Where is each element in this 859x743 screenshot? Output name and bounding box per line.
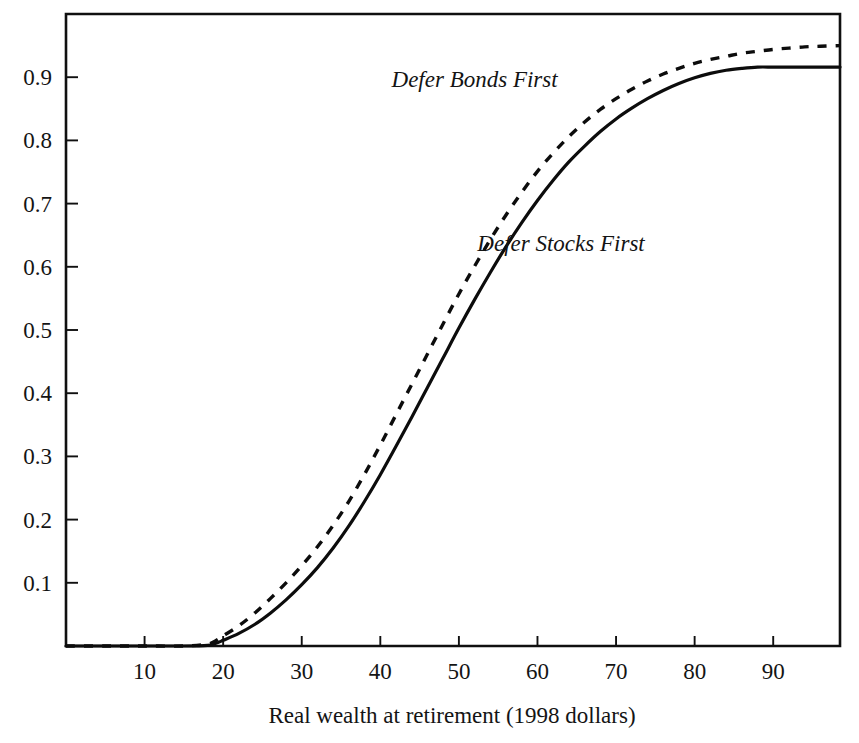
series-label-defer-stocks-first: Defer Stocks First — [476, 231, 645, 256]
y-axis-tick-labels: 0.10.20.30.40.50.60.70.80.9 — [23, 65, 52, 596]
y-tick-label-0.4: 0.4 — [23, 381, 52, 406]
x-tick-label-30: 30 — [290, 659, 313, 684]
x-axis-tick-labels: 102030405060708090 — [133, 659, 785, 684]
x-tick-label-60: 60 — [526, 659, 549, 684]
plot-frame — [66, 14, 840, 646]
x-tick-label-80: 80 — [683, 659, 706, 684]
x-tick-label-70: 70 — [605, 659, 628, 684]
x-tick-label-50: 50 — [447, 659, 470, 684]
y-tick-label-0.7: 0.7 — [23, 192, 52, 217]
y-tick-label-0.9: 0.9 — [23, 65, 52, 90]
y-tick-label-0.5: 0.5 — [23, 318, 52, 343]
x-tick-label-40: 40 — [369, 659, 392, 684]
y-tick-label-0.2: 0.2 — [23, 508, 52, 533]
y-tick-label-0.1: 0.1 — [23, 571, 52, 596]
x-tick-label-10: 10 — [133, 659, 156, 684]
series-line-defer-bonds-first — [66, 46, 840, 647]
series-line-defer-stocks-first — [66, 67, 840, 646]
x-axis-ticks — [145, 636, 774, 646]
chart-canvas: 102030405060708090 0.10.20.30.40.50.60.7… — [0, 0, 859, 743]
x-axis-title: Real wealth at retirement (1998 dollars) — [268, 703, 635, 728]
y-tick-label-0.6: 0.6 — [23, 255, 52, 280]
x-tick-label-20: 20 — [212, 659, 235, 684]
y-tick-label-0.8: 0.8 — [23, 128, 52, 153]
data-series-group — [66, 46, 840, 647]
series-label-defer-bonds-first: Defer Bonds First — [391, 67, 559, 92]
x-tick-label-90: 90 — [762, 659, 785, 684]
y-axis-ticks — [66, 77, 78, 583]
y-tick-label-0.3: 0.3 — [23, 444, 52, 469]
chart-figure: 102030405060708090 0.10.20.30.40.50.60.7… — [0, 0, 859, 743]
